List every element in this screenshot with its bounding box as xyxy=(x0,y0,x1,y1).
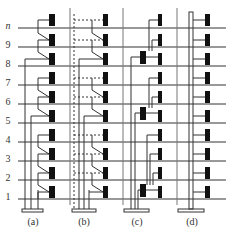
floor-label-3: 3 xyxy=(3,154,13,164)
caption-c: (c) xyxy=(125,216,149,227)
floor-label-2: 2 xyxy=(3,173,13,183)
panel-b xyxy=(72,14,103,212)
floor-label-9: 9 xyxy=(3,40,13,50)
floor-label-n: n xyxy=(3,21,13,31)
panel-d xyxy=(178,12,205,212)
panel-a xyxy=(22,20,49,212)
floor-label-6: 6 xyxy=(3,97,13,107)
floor-label-7: 7 xyxy=(3,78,13,88)
caption-a: (a) xyxy=(21,216,45,227)
floor-label-5: 5 xyxy=(3,116,13,126)
floor-label-4: 4 xyxy=(3,135,13,145)
building-riser-diagram xyxy=(0,0,226,233)
floor-label-1: 1 xyxy=(3,192,13,202)
caption-d: (d) xyxy=(180,216,204,227)
floor-label-8: 8 xyxy=(3,59,13,69)
caption-b: (b) xyxy=(72,216,96,227)
